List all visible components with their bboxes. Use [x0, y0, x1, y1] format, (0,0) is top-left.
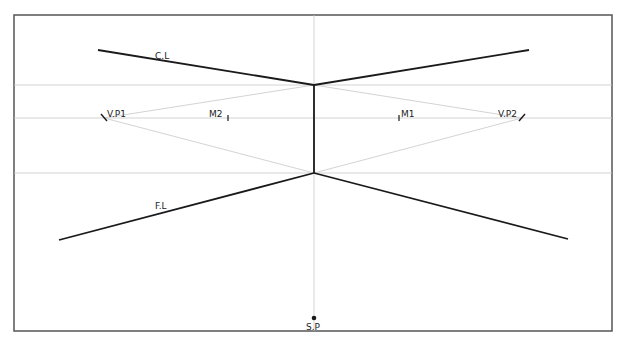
ceiling-line-label: C.L	[155, 51, 169, 61]
floor-line-label: F.L	[155, 201, 167, 211]
station-point-label: S.P	[306, 322, 321, 332]
perspective-diagram: C.L F.L V.P1 V.P2 M2 M1 S.P	[0, 0, 626, 346]
vp2-label: V.P2	[498, 109, 517, 119]
vp1-label: V.P1	[107, 109, 126, 119]
m2-label: M2	[209, 109, 223, 119]
m1-label: M1	[401, 109, 415, 119]
station-point-dot-icon	[312, 316, 317, 321]
